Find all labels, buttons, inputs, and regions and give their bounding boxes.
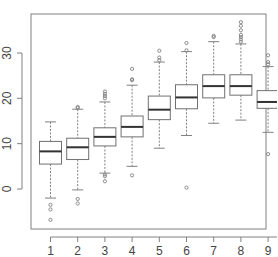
outlier-point xyxy=(49,208,52,211)
box-month-2 xyxy=(67,105,89,205)
outlier-point xyxy=(239,29,242,32)
y-axis: 0102030 xyxy=(0,46,22,192)
x-tick-label: 5 xyxy=(156,244,163,257)
box-month-3 xyxy=(94,90,116,183)
box-month-9 xyxy=(257,54,277,156)
outlier-point xyxy=(267,152,270,155)
outlier-point xyxy=(49,203,52,206)
boxes xyxy=(40,21,278,222)
plot-frame xyxy=(31,14,266,229)
x-tick-label: 4 xyxy=(129,244,136,257)
x-tick-label: 8 xyxy=(238,244,245,257)
box-month-5 xyxy=(148,49,170,148)
y-tick-label: 0 xyxy=(0,185,14,192)
box-month-6 xyxy=(176,41,198,189)
x-tick-label: 2 xyxy=(74,244,81,257)
x-tick-label: 3 xyxy=(102,244,109,257)
outlier-point xyxy=(239,33,242,36)
y-tick-label: 20 xyxy=(0,91,14,105)
x-tick-label: 9 xyxy=(265,244,272,257)
box-month-4 xyxy=(121,67,143,177)
outlier-point xyxy=(267,54,270,57)
outlier-point xyxy=(76,197,79,200)
x-tick-label: 1 xyxy=(47,244,54,257)
outlier-point xyxy=(76,202,79,205)
y-tick-label: 10 xyxy=(0,137,14,151)
outlier-point xyxy=(158,49,161,52)
outlier-point xyxy=(185,186,188,189)
box-month-8 xyxy=(230,21,252,121)
x-tick-label: 7 xyxy=(210,244,217,257)
outlier-point xyxy=(239,21,242,24)
boxplot-chart: 0102030 123456789101112 xyxy=(0,0,277,257)
x-axis: 123456789101112 xyxy=(47,237,277,257)
outlier-point xyxy=(267,60,270,63)
box-month-7 xyxy=(203,34,225,123)
outlier-point xyxy=(49,218,52,221)
outlier-point xyxy=(239,24,242,27)
outlier-point xyxy=(131,67,134,70)
outlier-point xyxy=(103,90,106,93)
x-tick-label: 6 xyxy=(183,244,190,257)
outlier-point xyxy=(185,41,188,44)
outlier-point xyxy=(131,174,134,177)
outlier-point xyxy=(103,180,106,183)
box-month-1 xyxy=(40,122,62,222)
y-tick-label: 30 xyxy=(0,46,14,60)
